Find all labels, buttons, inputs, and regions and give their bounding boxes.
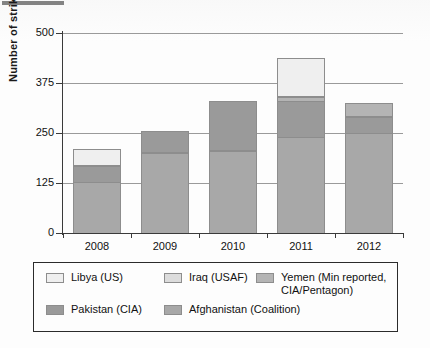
- x-tick-label-2011: 2011: [266, 240, 336, 252]
- x-tick-label-2009: 2009: [130, 240, 200, 252]
- y-tick-mark: [56, 83, 63, 84]
- y-tick-label: 500: [8, 27, 54, 38]
- legend-swatch-icon: [164, 273, 182, 283]
- y-tick-label: 125: [8, 177, 54, 188]
- x-tick-label-2012: 2012: [334, 240, 404, 252]
- legend-swatch-icon: [46, 305, 64, 315]
- legend-swatch-icon: [256, 273, 274, 283]
- legend-label: Afghanistan (Coalition): [189, 303, 300, 316]
- x-tick-mark: [199, 233, 200, 238]
- bar-segment: [73, 166, 121, 182]
- bar-segment: [345, 117, 393, 133]
- legend-label: Yemen (Min reported, CIA/Pentagon): [281, 271, 386, 297]
- legend-item[interactable]: Pakistan (CIA): [46, 303, 142, 316]
- bar-segment: [345, 133, 393, 233]
- legend-item[interactable]: Afghanistan (Coalition): [164, 303, 300, 316]
- plot-area: Number of strikes 0125250375500 20082009…: [0, 0, 430, 260]
- x-tick-mark: [335, 233, 336, 238]
- x-tick-mark: [403, 233, 404, 238]
- bar-2011: [277, 33, 325, 233]
- bar-segment: [141, 153, 189, 233]
- legend-item[interactable]: Yemen (Min reported, CIA/Pentagon): [256, 271, 386, 297]
- legend-label: Iraq (USAF): [189, 271, 248, 284]
- bar-2010: [209, 33, 257, 233]
- legend-item[interactable]: Iraq (USAF): [164, 271, 248, 284]
- legend-label: Pakistan (CIA): [71, 303, 142, 316]
- bar-segment: [277, 137, 325, 233]
- x-axis-line: [62, 233, 404, 234]
- y-tick-label: 375: [8, 77, 54, 88]
- legend-item[interactable]: Libya (US): [46, 271, 123, 284]
- bar-segment: [209, 101, 257, 151]
- bar-2012: [345, 33, 393, 233]
- bars-container: [63, 33, 403, 233]
- bar-segment: [277, 58, 325, 97]
- bar-segment: [277, 101, 325, 137]
- legend-label: Libya (US): [71, 271, 123, 284]
- y-tick-mark: [56, 33, 63, 34]
- y-tick-label: 250: [8, 127, 54, 138]
- y-tick-label: 0: [8, 227, 54, 238]
- chart-legend: Libya (US)Iraq (USAF)Yemen (Min reported…: [33, 262, 398, 332]
- y-axis-title: Number of strikes: [7, 0, 19, 82]
- bar-segment: [73, 182, 121, 233]
- legend-swatch-icon: [46, 273, 64, 283]
- y-tick-mark: [56, 233, 63, 234]
- x-tick-mark: [267, 233, 268, 238]
- bar-segment: [141, 131, 189, 153]
- x-tick-mark: [131, 233, 132, 238]
- bar-2009: [141, 33, 189, 233]
- bar-segment: [277, 97, 325, 101]
- bar-2008: [73, 33, 121, 233]
- chart-figure: Number of strikes 0125250375500 20082009…: [0, 0, 430, 348]
- bar-segment: [73, 149, 121, 166]
- y-tick-mark: [56, 183, 63, 184]
- x-tick-label-2008: 2008: [62, 240, 132, 252]
- bar-segment: [345, 103, 393, 117]
- bar-segment: [209, 151, 257, 233]
- legend-swatch-icon: [164, 305, 182, 315]
- x-tick-label-2010: 2010: [198, 240, 268, 252]
- y-tick-mark: [56, 133, 63, 134]
- x-tick-mark: [63, 233, 64, 238]
